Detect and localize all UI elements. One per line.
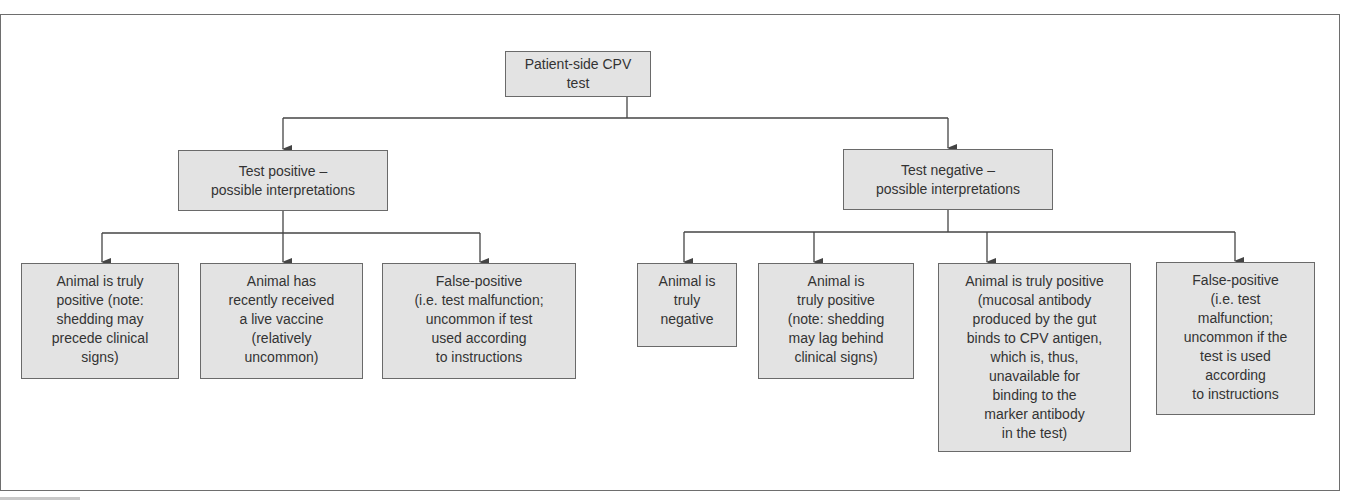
root-node: Patient-side CPV test [505, 51, 651, 97]
leaf-label: Animal has recently received a live vacc… [229, 272, 335, 367]
test-negative-label: Test negative – possible interpretations [876, 161, 1020, 199]
leaf-label: False-positive (i.e. test malfunction; u… [1184, 271, 1288, 404]
leaf-label: Animal is truly positive (note: shedding… [52, 272, 149, 367]
positive-truly-positive-node: Animal is truly positive (note: shedding… [21, 263, 179, 379]
diagram-frame [0, 14, 1340, 491]
test-positive-node: Test positive – possible interpretations [178, 150, 388, 211]
footer-bar [0, 497, 80, 500]
leaf-label: Animal is truly positive (mucosal antibo… [965, 272, 1104, 443]
leaf-label: Animal is truly positive (note: shedding… [788, 272, 885, 367]
negative-false-positive-node: False-positive (i.e. test malfunction; u… [1156, 262, 1315, 415]
test-negative-node: Test negative – possible interpretations [843, 149, 1053, 210]
negative-truly-negative-node: Animal is truly negative [637, 263, 737, 347]
leaf-label: False-positive (i.e. test malfunction; u… [414, 272, 543, 367]
leaf-label: Animal is truly negative [659, 272, 716, 329]
test-positive-label: Test positive – possible interpretations [211, 162, 355, 200]
negative-truly-positive-lag-node: Animal is truly positive (note: shedding… [758, 263, 914, 379]
positive-live-vaccine-node: Animal has recently received a live vacc… [200, 263, 363, 379]
root-label: Patient-side CPV test [512, 55, 644, 93]
negative-mucosal-antibody-node: Animal is truly positive (mucosal antibo… [938, 263, 1131, 452]
positive-false-positive-node: False-positive (i.e. test malfunction; u… [382, 263, 576, 379]
